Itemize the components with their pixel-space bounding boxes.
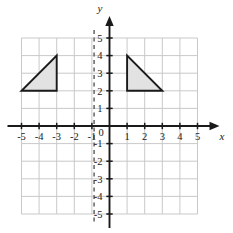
x-tick-label: 2 <box>142 131 147 142</box>
x-tick-label: -4 <box>35 131 44 142</box>
y-tick-label: -1 <box>94 138 103 149</box>
x-axis-arrow <box>210 122 220 130</box>
coordinate-plane-figure: -5-4-3-2-11234554321-1-2-3-4-5 x y 0 <box>0 0 233 233</box>
x-tick-label: 3 <box>160 131 165 142</box>
y-tick-label: 3 <box>97 68 102 79</box>
y-tick-label: 2 <box>97 86 102 97</box>
x-tick-label: 4 <box>177 131 183 142</box>
y-tick-label: -2 <box>94 156 103 167</box>
graph-canvas: -5-4-3-2-11234554321-1-2-3-4-5 x y 0 <box>0 0 233 233</box>
x-tick-label: -3 <box>52 131 61 142</box>
y-tick-label: 4 <box>97 50 103 61</box>
y-tick-label: -3 <box>94 174 103 185</box>
x-tick-label: 1 <box>124 131 129 142</box>
x-tick-label: -5 <box>17 131 26 142</box>
y-axis-label: y <box>97 2 103 14</box>
x-axis-label: x <box>219 130 225 142</box>
y-tick-label: 1 <box>97 103 102 114</box>
y-axis-arrow <box>105 16 113 26</box>
origin-label: 0 <box>98 127 103 138</box>
y-tick-label: -4 <box>94 191 103 202</box>
x-tick-label: -2 <box>70 131 79 142</box>
y-tick-label: -5 <box>94 209 103 220</box>
x-tick-label: 5 <box>195 131 200 142</box>
y-tick-label: 5 <box>97 33 102 44</box>
